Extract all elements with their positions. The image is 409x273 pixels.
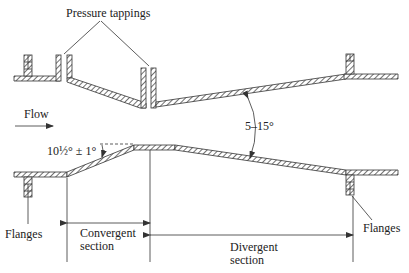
divergent-label-line1: Divergent [230, 240, 278, 254]
pressure-tappings-leader-left [64, 21, 100, 54]
pressure-tappings-label: Pressure tappings [66, 6, 151, 20]
convergent-top-wall [67, 78, 146, 108]
flange-bottom-right [346, 175, 354, 195]
flanges-right-leader [352, 196, 372, 220]
divergent-label-line2: section [230, 253, 264, 267]
convergent-angle-arrow [102, 145, 103, 157]
throat-bottom-wall [134, 145, 175, 150]
upstream-tap-wall-left [56, 55, 61, 81]
top-wall [14, 54, 398, 108]
throat-tap-wall-left [141, 68, 146, 108]
divergent-angle-label: 5–15° [245, 119, 274, 133]
flanges-right-label: Flanges [363, 221, 401, 235]
flange-bottom-left [24, 177, 32, 197]
throat-tap-wall-right [151, 68, 156, 108]
convergent-label-line2: section [80, 239, 114, 253]
upstream-tap-wall-right [67, 55, 72, 78]
flow-label: Flow [24, 107, 49, 121]
pressure-tappings-leader-right [101, 21, 149, 66]
inlet-pipe-top-wall [14, 76, 60, 81]
flanges-left-label: Flanges [5, 227, 43, 241]
divergent-bottom-wall [175, 145, 346, 175]
flange-top-left [24, 55, 32, 76]
divergent-top-wall [156, 74, 346, 107]
convergent-angle-label: 10½° ± 1° [47, 144, 96, 158]
convergent-label-line1: Convergent [80, 226, 136, 240]
inlet-pipe-bottom-wall [14, 172, 67, 177]
flange-top-right [346, 54, 354, 74]
outlet-pipe-top-wall [344, 74, 398, 79]
outlet-pipe-bottom-wall [346, 170, 398, 175]
venturi-diagram: Pressure tappings Flow 5–15° 10½° ± 1° C… [0, 0, 409, 273]
